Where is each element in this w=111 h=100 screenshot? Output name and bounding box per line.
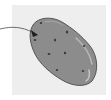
potato-illustration (0, 0, 111, 100)
pointer-line (0, 27, 32, 32)
